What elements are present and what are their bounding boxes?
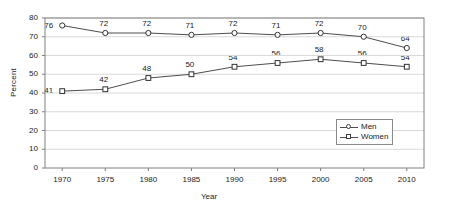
circle-marker-icon bbox=[339, 122, 359, 132]
legend-item-men: Men bbox=[339, 122, 388, 132]
chart-container: Percent Year 01020304050607080 197019751… bbox=[0, 0, 450, 209]
square-marker-icon bbox=[339, 132, 359, 142]
plot-area bbox=[0, 0, 450, 209]
legend-item-women: Women bbox=[339, 132, 388, 142]
legend-label-women: Women bbox=[359, 132, 388, 142]
legend: Men Women bbox=[336, 119, 393, 145]
legend-label-men: Men bbox=[359, 122, 377, 132]
data-series bbox=[60, 23, 410, 94]
axis-tickmarks bbox=[42, 18, 407, 171]
